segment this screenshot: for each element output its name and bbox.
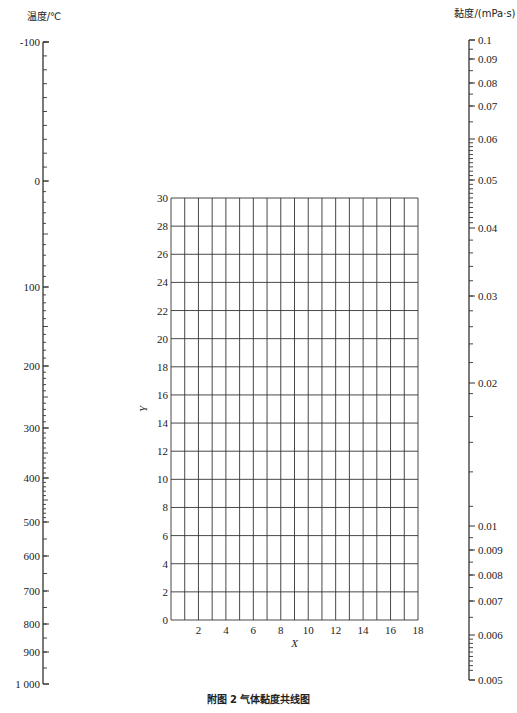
x-tick-label: 2 (196, 624, 202, 636)
temperature-tick-label: 500 (24, 516, 41, 528)
y-tick-label: 10 (157, 473, 169, 485)
viscosity-tick-label: 0.007 (478, 595, 503, 607)
viscosity-tick-label: 0.009 (478, 544, 503, 556)
viscosity-axis: 黏度/(mPa·s)0.10.090.080.070.060.050.040.0… (454, 7, 515, 686)
x-tick-label: 16 (385, 624, 397, 636)
viscosity-tick-label: 0.04 (478, 222, 498, 234)
temperature-tick-label: 300 (24, 422, 41, 434)
y-tick-label: 14 (157, 417, 169, 429)
y-tick-label: 2 (163, 586, 169, 598)
y-tick-label: 22 (157, 305, 168, 317)
x-tick-label: 14 (358, 624, 370, 636)
temperature-tick-label: 700 (24, 585, 41, 597)
viscosity-tick-label: 0.008 (478, 569, 503, 581)
xy-grid: 0246810121416182022242628302468101214161… (137, 192, 424, 649)
temperature-tick-label: 0 (35, 175, 41, 187)
x-axis-label: X (290, 637, 299, 649)
viscosity-tick-label: 0.09 (478, 53, 498, 65)
x-tick-label: 6 (251, 624, 257, 636)
viscosity-tick-label: 0.1 (478, 34, 492, 46)
temperature-tick-label: -100 (20, 36, 41, 48)
temperature-tick-label: 1 000 (15, 678, 40, 690)
viscosity-tick-label: 0.07 (478, 100, 498, 112)
temperature-axis: 温度/℃-10001002003004005006007008009001 00… (15, 10, 61, 690)
viscosity-tick-label: 0.006 (478, 629, 503, 641)
viscosity-tick-label: 0.08 (478, 77, 498, 89)
x-tick-label: 18 (413, 624, 425, 636)
gas-viscosity-nomogram: 温度/℃-10001002003004005006007008009001 00… (0, 0, 517, 713)
figure-caption: 附图 2 气体黏度共线图 (0, 691, 517, 706)
x-tick-label: 4 (223, 624, 229, 636)
viscosity-tick-label: 0.05 (478, 174, 498, 186)
y-tick-label: 0 (163, 614, 169, 626)
temperature-tick-label: 600 (24, 550, 41, 562)
viscosity-tick-label: 0.02 (478, 377, 497, 389)
viscosity-tick-label: 0.005 (478, 674, 503, 686)
x-tick-label: 8 (278, 624, 284, 636)
temperature-tick-label: 800 (24, 618, 41, 630)
y-tick-label: 20 (157, 333, 169, 345)
temperature-tick-label: 900 (24, 646, 41, 658)
y-tick-label: 18 (157, 361, 169, 373)
temperature-tick-label: 100 (24, 281, 41, 293)
viscosity-tick-label: 0.06 (478, 133, 498, 145)
viscosity-tick-label: 0.03 (478, 290, 498, 302)
viscosity-tick-label: 0.01 (478, 520, 497, 532)
y-tick-label: 28 (157, 220, 169, 232)
x-tick-label: 12 (330, 624, 341, 636)
y-tick-label: 30 (157, 192, 169, 204)
y-tick-label: 16 (157, 389, 169, 401)
y-axis-label: Y (137, 404, 149, 412)
x-tick-label: 10 (303, 624, 315, 636)
viscosity-axis-title: 黏度/(mPa·s) (454, 7, 515, 19)
y-tick-label: 6 (163, 530, 169, 542)
y-tick-label: 24 (157, 276, 169, 288)
y-tick-label: 8 (163, 501, 169, 513)
y-tick-label: 26 (157, 248, 169, 260)
temperature-tick-label: 200 (24, 360, 41, 372)
y-tick-label: 12 (157, 445, 168, 457)
temperature-axis-title: 温度/℃ (27, 10, 62, 22)
temperature-tick-label: 400 (24, 472, 41, 484)
y-tick-label: 4 (163, 558, 169, 570)
